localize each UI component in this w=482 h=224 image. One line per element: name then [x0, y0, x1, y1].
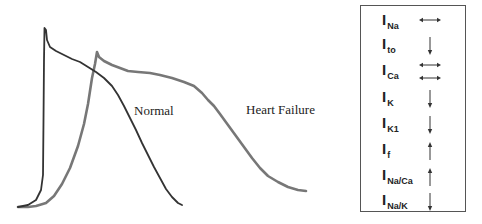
- normal-curve-label: Normal: [134, 103, 174, 119]
- down-arrow-icon: [418, 191, 442, 213]
- current-label-if: If: [382, 140, 390, 158]
- down-arrow-icon: [418, 114, 442, 136]
- ion-current-legend: INa Ito ICa IK IK1 If INa/Ca INa/K: [360, 5, 466, 212]
- current-label-ik1: IK1: [382, 114, 399, 132]
- current-label-ica: ICa: [382, 61, 399, 79]
- current-label-ina: INa: [382, 11, 399, 29]
- up-arrow-icon: [418, 166, 442, 188]
- legend-row-ito: Ito: [361, 35, 465, 61]
- heart-failure-curve: [18, 52, 306, 207]
- legend-row-ik1: IK1: [361, 114, 465, 140]
- legend-row-ina: INa: [361, 11, 465, 37]
- legend-row-ik: IK: [361, 88, 465, 114]
- legend-row-inak: INa/K: [361, 191, 465, 217]
- heart-failure-curve-label: Heart Failure: [246, 102, 315, 118]
- legend-row-if: If: [361, 140, 465, 166]
- action-potential-plot: Normal Heart Failure: [0, 0, 355, 224]
- current-label-inaca: INa/Ca: [382, 166, 413, 184]
- down-arrow-icon: [418, 88, 442, 110]
- double-horizontal-arrow-icon: [418, 11, 442, 33]
- up-arrow-icon: [418, 140, 442, 162]
- legend-row-ica: ICa: [361, 61, 465, 87]
- down-arrow-icon: [418, 35, 442, 57]
- current-label-ito: Ito: [382, 35, 396, 53]
- legend-row-inaca: INa/Ca: [361, 166, 465, 192]
- double-horizontal-arrows-icon: [418, 61, 442, 83]
- current-label-inak: INa/K: [382, 191, 408, 209]
- current-label-ik: IK: [382, 88, 394, 106]
